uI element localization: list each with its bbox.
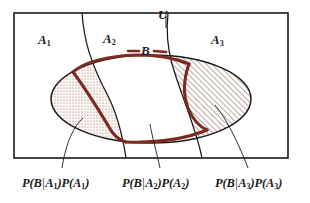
partition-label-a1: A1 bbox=[38, 33, 51, 46]
formula-a2: P(B|A2)P(A2) bbox=[122, 177, 189, 190]
partition-label-a3: A3 bbox=[211, 33, 224, 46]
formula-a3: P(B|A3)P(A3) bbox=[215, 177, 282, 190]
venn-diagram-figure: U A1 A2 A3 B P(B|A1)P(A1) P(B|A2)P(A2) P… bbox=[0, 0, 310, 203]
event-label-b: B bbox=[141, 44, 150, 57]
formula-a1: P(B|A1)P(A1) bbox=[22, 177, 89, 190]
venn-diagram-canvas bbox=[0, 0, 310, 203]
universe-label: U bbox=[158, 8, 167, 21]
b-label-leader-right bbox=[154, 51, 166, 52]
partition-label-a2: A2 bbox=[103, 32, 116, 45]
